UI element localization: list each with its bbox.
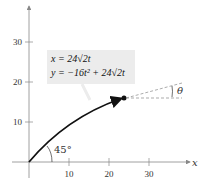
equation-y: y = −16t² + 24√2t [51, 67, 125, 78]
trajectory-curve [29, 99, 120, 162]
theta-label: θ [177, 85, 183, 96]
projectile-diagram: 10 20 30 10 20 30 x θ 45° x = 24√2t y = … [0, 0, 203, 188]
y-tick-30: 30 [13, 37, 23, 47]
diagram-canvas: 10 20 30 10 20 30 x θ 45° [0, 0, 203, 188]
x-axis-label: x [192, 157, 198, 168]
equation-x: x = 24√2t [51, 53, 90, 64]
equations-box: x = 24√2t y = −16t² + 24√2t [47, 50, 135, 84]
x-tick-10: 10 [65, 169, 75, 179]
y-tick-10: 10 [13, 117, 23, 127]
projectile-point [122, 96, 127, 101]
y-tick-20: 20 [13, 77, 23, 87]
x-tick-30: 30 [145, 169, 155, 179]
x-tick-20: 20 [105, 169, 115, 179]
angle-45-label: 45° [54, 144, 72, 155]
